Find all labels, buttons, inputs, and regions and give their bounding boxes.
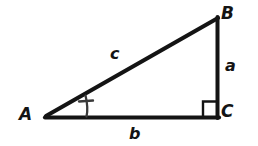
angle-tick-icon (79, 101, 93, 102)
vertex-label-b: B (221, 5, 234, 22)
side-label-c: c (110, 46, 119, 62)
vertex-label-c: C (221, 103, 233, 120)
side-label-b: b (129, 126, 140, 142)
right-triangle-figure: A B C a b c (0, 0, 258, 146)
side-c-hypotenuse (46, 18, 218, 116)
vertex-label-a: A (19, 106, 32, 123)
side-label-a: a (225, 58, 236, 74)
angle-arc-icon (86, 96, 88, 117)
right-angle-square-icon (203, 102, 216, 116)
